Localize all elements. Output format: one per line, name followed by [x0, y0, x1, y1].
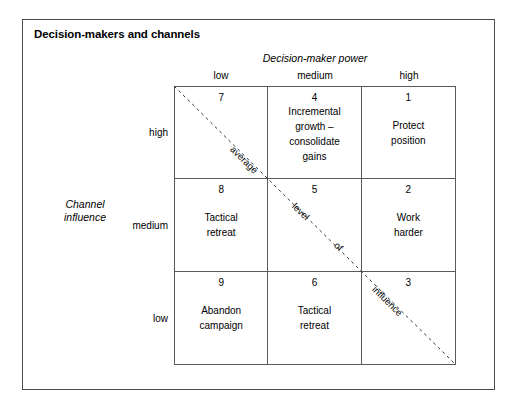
cell-label-line: Protect — [366, 118, 451, 133]
matrix-cell-1[interactable]: 1 Protect position — [362, 87, 455, 179]
cell-label-line: Tactical — [179, 210, 263, 225]
row-header-low: low — [120, 313, 168, 324]
cell-label-line: Incremental — [272, 104, 356, 119]
cell-number: 5 — [268, 184, 360, 195]
cell-label: Protect position — [362, 118, 455, 148]
row-header-medium: medium — [120, 220, 168, 231]
cell-label-line: consolidate — [272, 134, 356, 149]
cell-label-line: campaign — [179, 318, 263, 333]
column-header-high: high — [362, 70, 456, 81]
y-axis-title-line2: influence — [52, 211, 118, 224]
cell-label-line: Abandon — [179, 303, 263, 318]
cell-label-line: gains — [272, 149, 356, 164]
matrix-cell-9[interactable]: 9 Abandon campaign — [175, 272, 268, 364]
cell-number: 2 — [362, 184, 455, 195]
column-header-low: low — [174, 70, 268, 81]
cell-label: Incremental growth – consolidate gains — [268, 104, 360, 164]
matrix-cell-8[interactable]: 8 Tactical retreat — [175, 179, 268, 271]
matrix-cell-5[interactable]: 5 — [268, 179, 361, 271]
cell-number: 4 — [268, 92, 360, 103]
cell-label-line: Tactical — [272, 303, 356, 318]
cell-label-line: retreat — [179, 225, 263, 240]
row-header-high: high — [120, 127, 168, 138]
cell-label: Tactical retreat — [268, 303, 360, 333]
y-axis-title: Channel influence — [52, 198, 118, 224]
figure-container: Decision-makers and channels Decision-ma… — [0, 0, 514, 410]
column-header-medium: medium — [268, 70, 362, 81]
cell-label-line: harder — [366, 225, 451, 240]
x-axis-title: Decision-maker power — [174, 52, 456, 64]
cell-number: 1 — [362, 92, 455, 103]
matrix-grid: 7 4 Incremental growth – consolidate gai… — [174, 86, 456, 365]
cell-number: 9 — [175, 277, 267, 288]
y-axis-title-line1: Channel — [52, 198, 118, 211]
matrix-cell-6[interactable]: 6 Tactical retreat — [268, 272, 361, 364]
page-title: Decision-makers and channels — [34, 28, 200, 40]
matrix-cell-2[interactable]: 2 Work harder — [362, 179, 455, 271]
cell-number: 6 — [268, 277, 360, 288]
matrix-cell-4[interactable]: 4 Incremental growth – consolidate gains — [268, 87, 361, 179]
cell-label-line: Work — [366, 210, 451, 225]
cell-number: 8 — [175, 184, 267, 195]
cell-number: 7 — [175, 92, 267, 103]
cell-label: Tactical retreat — [175, 210, 267, 240]
cell-label: Abandon campaign — [175, 303, 267, 333]
cell-label-line: growth – — [272, 119, 356, 134]
cell-label: Work harder — [362, 210, 455, 240]
cell-label-line: position — [366, 133, 451, 148]
cell-label-line: retreat — [272, 318, 356, 333]
